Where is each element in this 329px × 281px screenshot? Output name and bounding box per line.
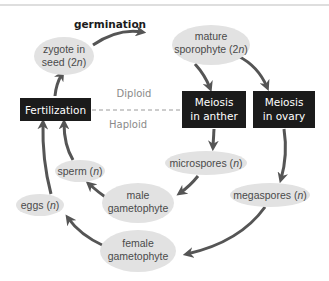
svg-text:sperm (n): sperm (n) (58, 165, 103, 177)
node-female-gametophyte: female gametophyte (100, 230, 176, 272)
node-fertilization: Fertilization (20, 98, 91, 121)
arrow-anther-to-microspores (213, 129, 214, 147)
arrow-microspores-to-male (180, 176, 198, 193)
node-mature-sporophyte: mature sporophyte (2n) (172, 25, 250, 65)
diploid-label: Diploid (117, 88, 152, 99)
haploid-label: Haploid (109, 119, 147, 130)
svg-text:gametophyte: gametophyte (108, 250, 169, 262)
svg-text:megaspores (n): megaspores (n) (233, 189, 307, 201)
arrow-eggs-to-fertilization (43, 123, 51, 194)
node-sperm: sperm (n) (55, 160, 105, 182)
svg-text:Meiosis: Meiosis (195, 96, 234, 108)
svg-text:gametophyte: gametophyte (108, 202, 169, 214)
arrow-ovary-to-megaspores (281, 129, 285, 179)
svg-text:female: female (122, 237, 154, 249)
node-eggs: eggs (n) (16, 194, 64, 216)
arrow-sperm-to-fertilization (64, 123, 73, 160)
arrow-sporophyte-to-ovary (238, 56, 267, 87)
svg-text:male: male (127, 189, 150, 201)
svg-text:Fertilization: Fertilization (25, 104, 86, 116)
node-male-gametophyte: male gametophyte (102, 183, 174, 223)
arrow-fertilization-to-zygote (55, 74, 62, 96)
svg-text:mature: mature (195, 30, 228, 42)
svg-text:eggs (n): eggs (n) (21, 199, 60, 211)
plant-life-cycle-diagram: germination zygote in seed (2n) mature s… (0, 0, 329, 281)
node-zygote: zygote in seed (2n) (34, 37, 94, 75)
svg-text:microspores (n): microspores (n) (170, 157, 243, 169)
node-megaspores: megaspores (n) (230, 183, 310, 207)
svg-text:seed (2n): seed (2n) (42, 56, 86, 68)
arrow-female-to-eggs (68, 218, 104, 246)
node-meiosis-anther: Meiosis in anther (182, 91, 246, 128)
svg-text:in anther: in anther (190, 110, 238, 122)
arrow-sporophyte-to-anther (195, 64, 210, 88)
node-meiosis-ovary: Meiosis in ovary (253, 91, 315, 128)
germination-label: germination (74, 18, 146, 30)
arrow-zygote-to-sporophyte (93, 31, 142, 45)
node-microspores: microspores (n) (165, 151, 247, 175)
svg-text:zygote in: zygote in (43, 43, 85, 55)
arrow-megaspores-to-female (187, 207, 265, 254)
svg-text:Meiosis: Meiosis (265, 96, 304, 108)
svg-text:in ovary: in ovary (263, 110, 306, 122)
svg-text:sporophyte (2n): sporophyte (2n) (174, 43, 248, 55)
